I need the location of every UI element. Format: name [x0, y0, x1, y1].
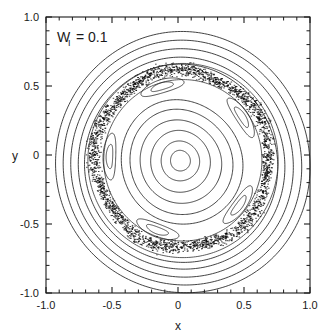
y-tick-label: 0: [33, 149, 39, 161]
annotation-value: = 0.1: [76, 29, 108, 45]
y-tick-label: -0.5: [20, 218, 39, 230]
x-tick-label: -1.0: [37, 299, 56, 311]
x-axis-title: x: [175, 319, 181, 333]
x-tick-label: 0.5: [236, 299, 251, 311]
x-tick-label: 0: [175, 299, 181, 311]
y-tick-label: 0.5: [24, 80, 39, 92]
y-tick-label: 1.0: [24, 11, 39, 23]
poincare-section-figure: -1.0-0.500.51.0 -1.0-0.500.51.0 x y W I …: [0, 0, 327, 335]
y-axis-title: y: [12, 149, 18, 163]
plot-canvas: -1.0-0.500.51.0 -1.0-0.500.51.0 x y W I …: [0, 0, 327, 335]
y-tick-label: -1.0: [20, 287, 39, 299]
x-tick-label: -0.5: [103, 299, 122, 311]
x-tick-label: 1.0: [302, 299, 317, 311]
annotation-subscript: I: [68, 38, 71, 48]
